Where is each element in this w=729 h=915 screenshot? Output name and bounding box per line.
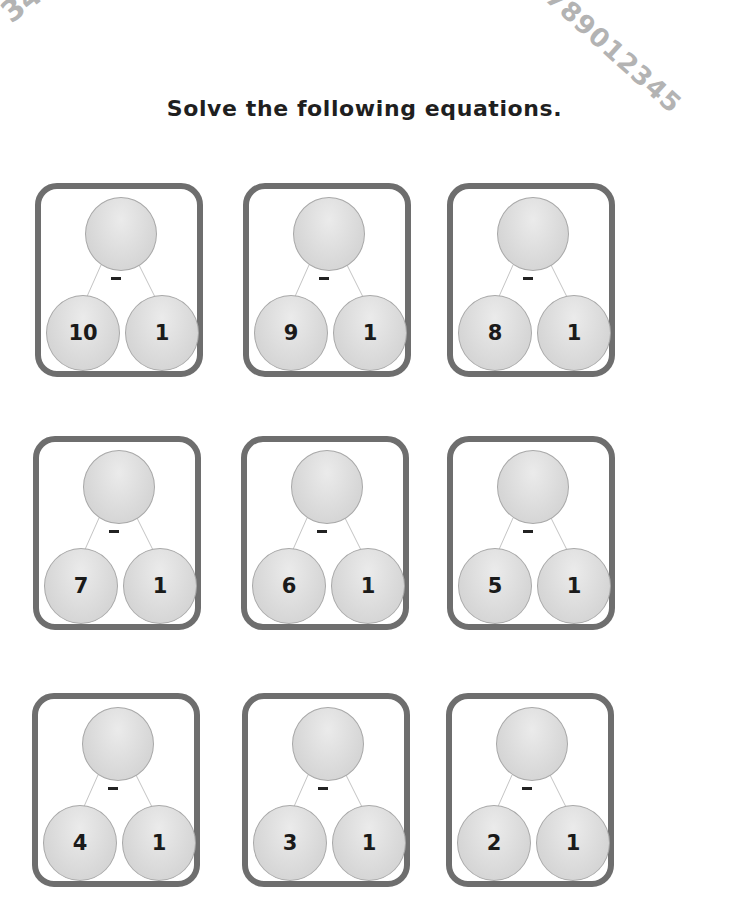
subtrahend-circle: 1 xyxy=(122,805,196,881)
subtrahend-circle: 1 xyxy=(331,548,405,624)
minuend-circle: 8 xyxy=(458,295,532,371)
subtrahend-circle: 1 xyxy=(333,295,407,371)
subtrahend-circle: 1 xyxy=(123,548,197,624)
minus-sign xyxy=(319,277,329,280)
subtrahend-circle: 1 xyxy=(332,805,406,881)
subtrahend-circle: 1 xyxy=(537,295,611,371)
worksheet-title: Solve the following equations. xyxy=(0,96,729,121)
number-bond-box-3: 8 1 xyxy=(447,183,615,377)
answer-circle[interactable] xyxy=(497,450,569,524)
number-bond-box-8: 3 1 xyxy=(242,693,410,887)
number-bond-box-5: 6 1 xyxy=(241,436,409,630)
minuend-circle: 3 xyxy=(253,805,327,881)
minuend-circle: 7 xyxy=(44,548,118,624)
answer-circle[interactable] xyxy=(291,450,363,524)
answer-circle[interactable] xyxy=(497,197,569,271)
answer-circle[interactable] xyxy=(85,197,157,271)
minuend-circle: 6 xyxy=(252,548,326,624)
number-bond-box-9: 2 1 xyxy=(446,693,614,887)
minus-sign xyxy=(109,530,119,533)
minus-sign xyxy=(522,787,532,790)
answer-circle[interactable] xyxy=(82,707,154,781)
minus-sign xyxy=(318,787,328,790)
subtrahend-circle: 1 xyxy=(537,548,611,624)
minus-sign xyxy=(108,787,118,790)
number-bond-box-7: 4 1 xyxy=(32,693,200,887)
minus-sign xyxy=(111,277,121,280)
minuend-circle: 5 xyxy=(458,548,532,624)
minuend-circle: 9 xyxy=(254,295,328,371)
number-bond-box-6: 5 1 xyxy=(447,436,615,630)
number-bond-box-2: 9 1 xyxy=(243,183,411,377)
number-bond-box-1: 10 1 xyxy=(35,183,203,377)
answer-circle[interactable] xyxy=(292,707,364,781)
subtrahend-circle: 1 xyxy=(125,295,199,371)
minuend-circle: 10 xyxy=(46,295,120,371)
minus-sign xyxy=(317,530,327,533)
answer-circle[interactable] xyxy=(293,197,365,271)
minuend-circle: 2 xyxy=(457,805,531,881)
minus-sign xyxy=(523,277,533,280)
minus-sign xyxy=(523,530,533,533)
decorative-numbers-top-left: 345 xyxy=(0,0,65,30)
answer-circle[interactable] xyxy=(496,707,568,781)
answer-circle[interactable] xyxy=(83,450,155,524)
subtrahend-circle: 1 xyxy=(536,805,610,881)
number-bond-box-4: 7 1 xyxy=(33,436,201,630)
minuend-circle: 4 xyxy=(43,805,117,881)
